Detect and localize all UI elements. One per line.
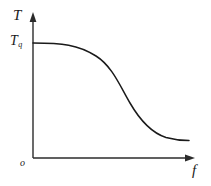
plot-canvas — [0, 0, 211, 186]
y-axis-arrowhead-icon — [30, 12, 37, 22]
temperature-curve — [33, 43, 189, 141]
y-axis-label: T — [13, 8, 21, 23]
tq-subscript: q — [18, 40, 22, 49]
origin-label: o — [20, 158, 25, 168]
y-axis-value-tq: Tq — [10, 34, 22, 49]
tq-base: T — [10, 33, 18, 48]
temperature-frequency-plot: T f o Tq — [0, 0, 211, 186]
x-axis-label: f — [192, 163, 196, 178]
x-axis-arrowhead-icon — [185, 155, 195, 162]
